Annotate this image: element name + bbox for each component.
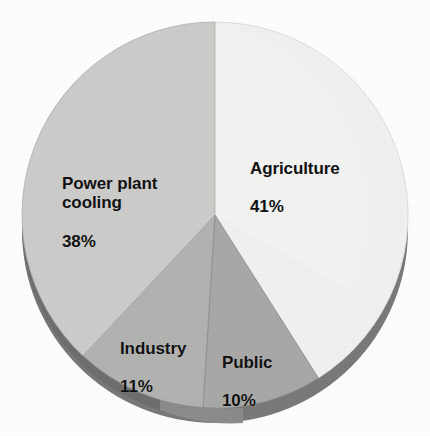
- slice-label-industry-name: Industry: [120, 339, 186, 359]
- slice-label-public-name: Public: [222, 353, 272, 373]
- slice-label-agriculture-value: 41%: [250, 197, 340, 217]
- slice-label-power-plant-cooling-value: 38%: [62, 232, 157, 252]
- slice-label-power-plant-cooling-name: Power plant cooling: [62, 174, 157, 213]
- slice-label-public-value: 10%: [222, 391, 272, 411]
- slice-label-industry: Industry 11%: [120, 320, 186, 415]
- slice-label-industry-value: 11%: [120, 377, 186, 397]
- slice-label-public: Public 10%: [222, 334, 272, 429]
- slice-label-agriculture-name: Agriculture: [250, 159, 340, 179]
- slice-label-power-plant-cooling: Power plant cooling 38%: [62, 155, 157, 270]
- pie-chart: Agriculture 41% Power plant cooling 38% …: [0, 0, 430, 436]
- slice-label-agriculture: Agriculture 41%: [250, 140, 340, 235]
